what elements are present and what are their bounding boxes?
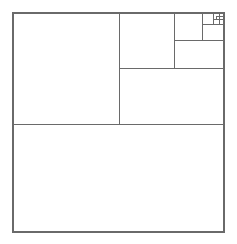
subdivision-canvas: [0, 0, 237, 244]
subdivision-lines: [13, 13, 224, 232]
fibonacci-subdivision-figure: [0, 0, 237, 244]
